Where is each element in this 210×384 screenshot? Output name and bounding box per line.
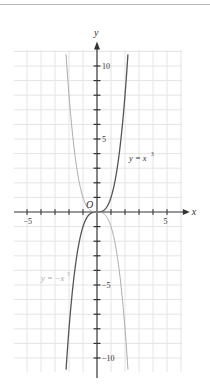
origin-label: O <box>86 199 93 210</box>
x-axis-arrow-icon <box>183 209 190 215</box>
label-y-equals-neg-x-cubed: y = −x <box>40 273 64 283</box>
y-tick-label: −10 <box>102 354 115 363</box>
exponent-label: 3 <box>151 151 154 157</box>
label-y-equals-x-cubed: y = x <box>128 153 147 163</box>
x-tick-label: −5 <box>24 217 33 226</box>
grid-lines <box>14 50 182 372</box>
axes <box>14 41 190 378</box>
y-axis-arrow-icon <box>94 41 100 49</box>
labels: −55105−5−10xyOy = x3y = −x3 <box>24 27 197 363</box>
y-axis-label: y <box>93 27 99 38</box>
y-tick-label: 10 <box>102 62 110 71</box>
x-axis-label: x <box>191 206 197 217</box>
y-tick-label: −5 <box>102 281 111 290</box>
x-tick-label: 5 <box>164 217 168 226</box>
cubic-function-chart: −55105−5−10xyOy = x3y = −x3 <box>0 0 210 384</box>
y-tick-label: 5 <box>102 135 106 144</box>
exponent-label: 3 <box>67 271 70 277</box>
